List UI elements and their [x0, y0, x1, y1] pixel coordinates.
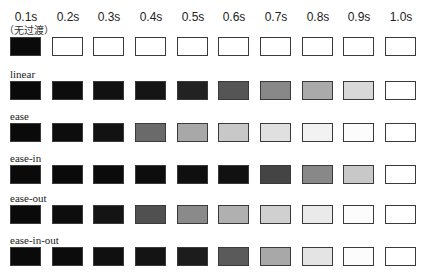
color-swatch	[177, 81, 208, 100]
color-swatch	[10, 247, 41, 266]
color-swatch	[135, 37, 166, 56]
color-swatch	[135, 205, 166, 224]
color-swatch	[218, 81, 249, 100]
color-swatch	[177, 247, 208, 266]
color-swatch	[343, 123, 374, 142]
color-swatch	[385, 37, 416, 56]
column-header: 0.7s	[256, 10, 296, 24]
color-swatch	[135, 165, 166, 184]
color-swatch	[260, 205, 291, 224]
column-header: 0.8s	[298, 10, 338, 24]
color-swatch	[385, 123, 416, 142]
column-header: 0.3s	[89, 10, 129, 24]
timing-function-label: ease-out	[10, 192, 47, 204]
color-swatch	[177, 123, 208, 142]
color-swatch	[52, 81, 83, 100]
color-swatch	[135, 81, 166, 100]
color-swatch	[52, 165, 83, 184]
no-transition-note: （无过渡）	[4, 22, 54, 37]
color-swatch	[343, 81, 374, 100]
color-swatch	[218, 247, 249, 266]
timing-function-label: ease-in-out	[10, 234, 59, 246]
column-header: 0.2s	[48, 10, 88, 24]
color-swatch	[135, 123, 166, 142]
color-swatch	[302, 247, 333, 266]
color-swatch	[93, 37, 124, 56]
color-swatch	[93, 247, 124, 266]
column-header: 0.9s	[339, 10, 379, 24]
column-header: 0.5s	[173, 10, 213, 24]
timing-function-label: ease-in	[10, 152, 41, 164]
color-swatch	[260, 123, 291, 142]
color-swatch	[93, 123, 124, 142]
color-swatch	[343, 247, 374, 266]
color-swatch	[218, 205, 249, 224]
color-swatch	[260, 37, 291, 56]
color-swatch	[343, 205, 374, 224]
color-swatch	[135, 247, 166, 266]
color-swatch	[385, 81, 416, 100]
color-swatch	[343, 165, 374, 184]
color-swatch	[177, 165, 208, 184]
color-swatch	[260, 81, 291, 100]
color-swatch	[10, 37, 41, 56]
column-header: 0.4s	[131, 10, 171, 24]
color-swatch	[302, 37, 333, 56]
color-swatch	[218, 123, 249, 142]
color-swatch	[52, 37, 83, 56]
timing-function-label: linear	[10, 68, 35, 80]
color-swatch	[93, 205, 124, 224]
color-swatch	[302, 205, 333, 224]
column-header: 1.0s	[381, 10, 421, 24]
color-swatch	[10, 81, 41, 100]
color-swatch	[343, 37, 374, 56]
color-swatch	[52, 205, 83, 224]
color-swatch	[302, 81, 333, 100]
color-swatch	[218, 165, 249, 184]
color-swatch	[385, 247, 416, 266]
color-swatch	[10, 123, 41, 142]
color-swatch	[218, 37, 249, 56]
color-swatch	[52, 247, 83, 266]
color-swatch	[93, 81, 124, 100]
color-swatch	[385, 165, 416, 184]
color-swatch	[93, 165, 124, 184]
color-swatch	[177, 37, 208, 56]
color-swatch	[10, 205, 41, 224]
column-header: 0.6s	[214, 10, 254, 24]
color-swatch	[10, 165, 41, 184]
timing-function-label: ease	[10, 110, 29, 122]
color-swatch	[52, 123, 83, 142]
color-swatch	[385, 205, 416, 224]
color-swatch	[260, 165, 291, 184]
color-swatch	[177, 205, 208, 224]
color-swatch	[302, 165, 333, 184]
color-swatch	[260, 247, 291, 266]
color-swatch	[302, 123, 333, 142]
